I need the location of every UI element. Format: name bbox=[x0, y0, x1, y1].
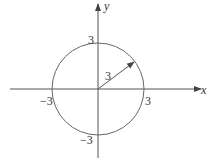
tick-label-x-pos: 3 bbox=[145, 94, 151, 108]
tick-label-y-pos: 3 bbox=[88, 33, 94, 47]
circle-diagram: y x 3 3 −3 3 −3 bbox=[0, 0, 210, 166]
x-axis-label: x bbox=[200, 83, 207, 97]
radius-label: 3 bbox=[105, 69, 111, 83]
radius-arrow bbox=[98, 62, 134, 89]
tick-label-y-neg: −3 bbox=[80, 133, 93, 147]
diagram-canvas: y x 3 3 −3 3 −3 bbox=[0, 0, 210, 166]
tick-label-x-neg: −3 bbox=[40, 94, 53, 108]
y-axis-label: y bbox=[103, 0, 110, 13]
